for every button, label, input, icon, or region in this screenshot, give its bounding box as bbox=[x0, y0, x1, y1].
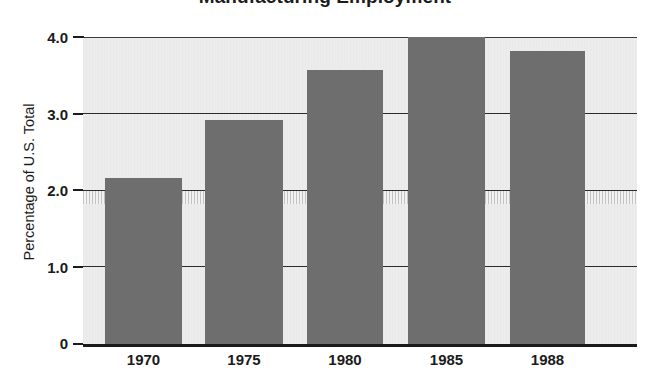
y-axis-tick-labels: 4.0 3.0 2.0 1.0 0 bbox=[16, 0, 68, 386]
y-tick-label-3: 3.0 bbox=[22, 106, 68, 123]
y-tick-label-0: 0 bbox=[22, 335, 68, 352]
x-tick-label-1988: 1988 bbox=[510, 351, 585, 368]
chart-title: Manufacturing Employment bbox=[0, 0, 650, 8]
x-tick-label-1980: 1980 bbox=[307, 351, 383, 368]
x-tick-label-1985: 1985 bbox=[408, 351, 485, 368]
y-tick-label-2: 2.0 bbox=[22, 182, 68, 199]
chart-figure: Manufacturing Employment Percentage of U… bbox=[0, 0, 650, 386]
x-axis-line bbox=[83, 344, 637, 347]
bar-1988[interactable] bbox=[510, 51, 585, 344]
plot-area bbox=[83, 37, 637, 344]
bar-1970[interactable] bbox=[105, 178, 182, 344]
y-tick-label-1: 1.0 bbox=[22, 259, 68, 276]
bar-1980[interactable] bbox=[307, 70, 383, 344]
bar-1985[interactable] bbox=[408, 37, 485, 344]
x-tick-label-1975: 1975 bbox=[205, 351, 283, 368]
gridline-4 bbox=[83, 37, 637, 38]
y-tick-label-4: 4.0 bbox=[22, 29, 68, 46]
bar-1975[interactable] bbox=[205, 120, 283, 344]
x-tick-label-1970: 1970 bbox=[105, 351, 182, 368]
